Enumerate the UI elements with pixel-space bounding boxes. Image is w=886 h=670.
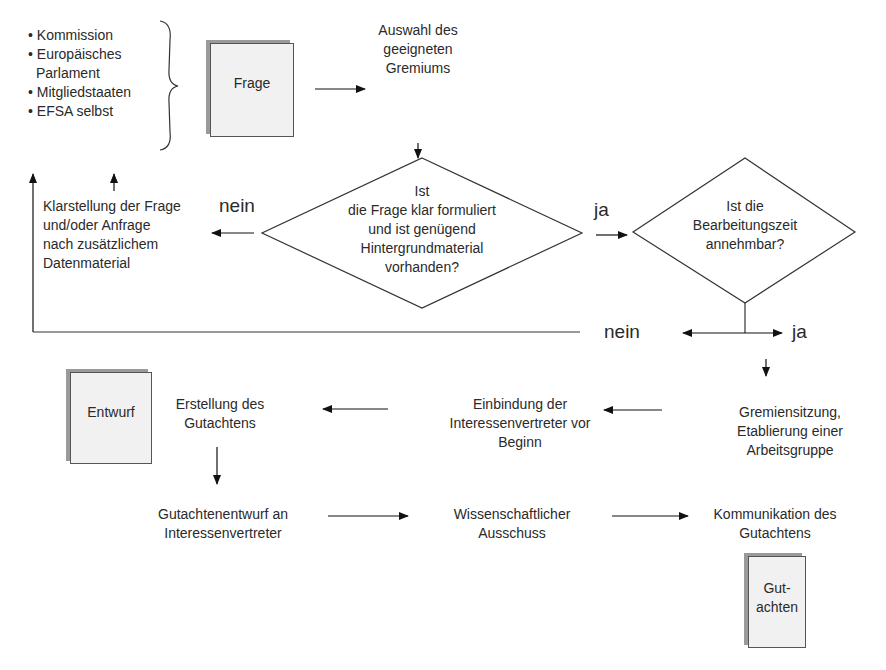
step-kommunikation: Kommunikation des Gutachtens <box>700 505 850 543</box>
step-gremiensitzung: Gremiensitzung, Etablierung einer Arbeit… <box>720 403 860 460</box>
source-item: • Mitgliedstaaten <box>28 83 131 102</box>
source-item: Parlament <box>28 64 131 83</box>
step-klarstellung: Klarstellung der Frage und/oder Anfrage … <box>43 197 181 273</box>
source-list: • Kommission • Europäisches Parlament • … <box>28 26 131 121</box>
label-nein-2: nein <box>604 322 640 341</box>
step-einbindung: Einbindung der Interessenvertreter vor B… <box>430 395 610 452</box>
document-entwurf: Entwurf <box>70 372 152 464</box>
source-item: • EFSA selbst <box>28 102 131 121</box>
document-gutachten: Gut- achten <box>748 556 806 648</box>
label-ja-2: ja <box>792 322 807 341</box>
step-ausschuss: Wissenschaftlicher Ausschuss <box>442 505 582 543</box>
document-label: Entwurf <box>87 403 134 422</box>
label-nein-1: nein <box>219 196 255 215</box>
label-ja-1: ja <box>594 200 609 219</box>
document-frage: Frage <box>210 43 294 137</box>
source-item: • Kommission <box>28 26 131 45</box>
decision-1-text: Ist die Frage klar formuliert und ist ge… <box>322 182 522 277</box>
source-item: • Europäisches <box>28 45 131 64</box>
step-auswahl: Auswahl des geeigneten Gremiums <box>368 21 468 78</box>
decision-2-text: Ist die Bearbeitungszeit annehmbar? <box>675 197 815 254</box>
document-label: Gut- achten <box>756 579 798 617</box>
document-label: Frage <box>234 74 271 93</box>
step-erstellung: Erstellung des Gutachtens <box>165 395 275 433</box>
step-entwurf-an: Gutachtenentwurf an Interessenvertreter <box>148 505 298 543</box>
